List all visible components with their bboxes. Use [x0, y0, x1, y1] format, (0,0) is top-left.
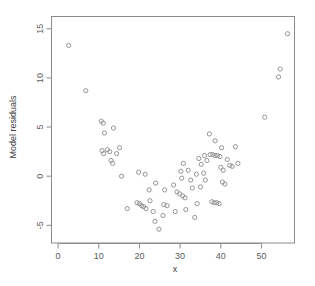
data-point: [213, 139, 217, 143]
y-tick-label: 10: [35, 73, 45, 83]
x-tick-label: 20: [134, 251, 144, 261]
data-point: [278, 67, 282, 71]
data-point: [184, 207, 188, 211]
data-point: [119, 174, 123, 178]
data-point: [236, 161, 240, 165]
data-point: [199, 162, 203, 166]
x-axis-title: x: [173, 264, 178, 274]
data-point: [157, 227, 161, 231]
data-point: [220, 146, 224, 150]
data-point: [233, 145, 237, 149]
data-point: [163, 188, 167, 192]
y-tick-label: -5: [35, 221, 45, 229]
data-point: [111, 126, 115, 130]
data-point: [102, 131, 106, 135]
x-tick-label: 10: [94, 251, 104, 261]
data-point: [189, 178, 193, 182]
data-point: [207, 132, 211, 136]
data-point: [186, 168, 190, 172]
data-point: [181, 161, 185, 165]
x-tick-label: 50: [256, 251, 266, 261]
y-axis-title: Model residuals: [8, 95, 18, 159]
data-point: [202, 171, 206, 175]
data-point: [125, 207, 129, 211]
data-points-layer: [67, 32, 290, 232]
data-point: [195, 202, 199, 206]
data-point: [276, 75, 280, 79]
chart-canvas: Model residuals x -5051015 01020304050: [0, 0, 315, 286]
data-point: [180, 176, 184, 180]
data-point: [193, 215, 197, 219]
data-point: [117, 146, 121, 150]
y-axis: -5051015: [35, 24, 51, 230]
data-point: [143, 172, 147, 176]
data-point: [225, 157, 229, 161]
y-tick-label: 15: [35, 24, 45, 34]
data-point: [179, 169, 183, 173]
y-tick-label: 5: [35, 125, 45, 130]
data-point: [173, 209, 177, 213]
data-point: [221, 168, 225, 172]
data-point: [151, 209, 155, 213]
data-point: [198, 185, 202, 189]
data-point: [203, 178, 207, 182]
x-axis: 01020304050: [56, 244, 267, 262]
data-point: [285, 32, 289, 36]
data-point: [154, 181, 158, 185]
data-point: [84, 89, 88, 93]
data-point: [137, 170, 141, 174]
x-tick-label: 0: [56, 251, 61, 261]
scatter-plot-figure: Model residuals x -5051015 01020304050: [0, 0, 315, 286]
plot-frame: [52, 17, 295, 244]
data-point: [263, 115, 267, 119]
data-point: [147, 188, 151, 192]
data-point: [197, 156, 201, 160]
x-tick-label: 30: [175, 251, 185, 261]
data-point: [190, 186, 194, 190]
data-point: [161, 213, 165, 217]
data-point: [202, 153, 206, 157]
data-point: [153, 219, 157, 223]
data-point: [172, 183, 176, 187]
data-point: [67, 43, 71, 47]
y-tick-label: 0: [35, 174, 45, 179]
data-point: [148, 199, 152, 203]
data-point: [115, 151, 119, 155]
data-point: [205, 158, 209, 162]
x-tick-label: 40: [216, 251, 226, 261]
data-point: [194, 172, 198, 176]
